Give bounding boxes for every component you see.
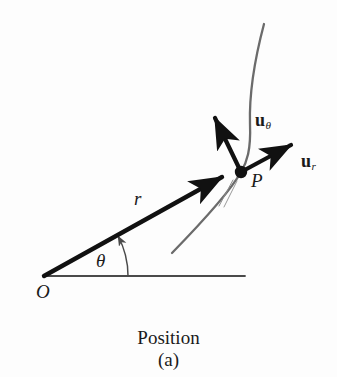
label-unit-vector-u-r: ur bbox=[301, 152, 316, 172]
u-r-subscript: r bbox=[311, 160, 316, 172]
label-radius-r: r bbox=[134, 189, 141, 208]
u-r-base-symbol: u bbox=[301, 151, 311, 171]
label-angle-theta: θ bbox=[96, 251, 105, 270]
theta-angle-arc bbox=[118, 236, 128, 276]
particle-path-curve bbox=[172, 24, 264, 253]
unit-vector-u-theta bbox=[215, 118, 241, 172]
caption-subtitle: (a) bbox=[0, 349, 337, 371]
label-origin-o: O bbox=[36, 282, 50, 301]
caption-title: Position bbox=[0, 327, 337, 349]
particle-point-marker bbox=[235, 166, 247, 178]
position-diagram-figure: O θ r P uθ ur Position (a) bbox=[0, 0, 337, 377]
diagram-canvas bbox=[0, 0, 337, 377]
u-theta-base-symbol: u bbox=[255, 110, 265, 130]
figure-caption: Position (a) bbox=[0, 327, 337, 371]
label-point-p: P bbox=[251, 171, 263, 190]
u-theta-subscript: θ bbox=[265, 119, 271, 131]
position-vector-r bbox=[44, 177, 222, 276]
label-unit-vector-u-theta: uθ bbox=[255, 111, 271, 131]
